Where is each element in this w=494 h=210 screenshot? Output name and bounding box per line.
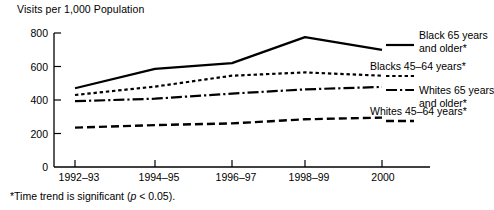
legend-label-whites-45-64: Whites 45–64 years* [370,105,467,118]
x-tick-label-1998-99: 1998–99 [289,171,330,183]
footnote-text-pre: Time trend is significant ( [14,190,130,202]
footnote-text-post: < 0.05). [136,190,175,202]
series-line-black-65-plus [75,37,382,88]
x-tick-label-1996-97: 1996–97 [216,171,257,183]
y-tick-label-200: 200 [14,128,48,140]
chart-footnote: *Time trend is significant (p < 0.05). [10,190,175,202]
series-line-blacks-45-64 [75,72,382,95]
x-tick-label-1992-93: 1992–93 [59,171,100,183]
legend-label-black-65-plus: Black 65 years and older* [419,29,488,54]
legend-label-black-65-plus-line1: Black 65 years [419,29,488,42]
x-axis-ticks [75,160,382,167]
legend-label-whites-65-plus-line1: Whites 65 years [419,84,494,97]
y-tick-label-400: 400 [14,94,48,106]
y-tick-label-600: 600 [14,61,48,73]
x-tick-label-2000: 2000 [371,171,394,183]
legend-label-blacks-45-64: Blacks 45–64 years* [370,60,466,73]
legend-label-black-65-plus-line2: and older* [419,42,488,55]
y-tick-label-0: 0 [14,161,48,173]
series-line-whites-45-64 [75,118,382,128]
y-axis-ticks [54,33,61,134]
y-tick-label-800: 800 [14,27,48,39]
series-line-whites-65-plus [75,87,382,101]
x-tick-label-1994-95: 1994–95 [139,171,180,183]
